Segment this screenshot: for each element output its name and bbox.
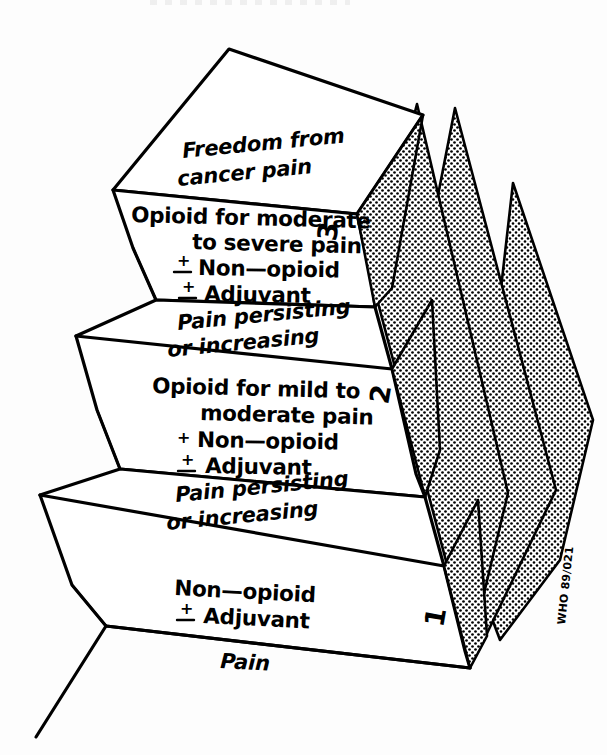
step-2-sign-4: +: [178, 450, 195, 471]
step-1-group: [40, 469, 487, 668]
step-3-sign-4: +: [179, 277, 196, 298]
step-1-sign-2: +: [177, 599, 194, 620]
step-2-treatment-line-2: moderate pain: [200, 400, 374, 430]
step-3-treatment-line-3: Non—opioid: [198, 255, 340, 282]
plus-glyph-c: +: [181, 450, 194, 469]
plus-glyph-a: +: [177, 251, 190, 270]
who-analgesic-ladder-figure: Freedom from cancer pain Opioid for mode…: [0, 0, 607, 755]
step-2-sign-3: +: [177, 428, 190, 447]
plus-glyph-d: +: [180, 599, 193, 618]
base-label-pain: Pain: [220, 649, 271, 676]
ladder-diagram-canvas: Freedom from cancer pain Opioid for mode…: [0, 0, 607, 755]
step-3-sign-3: +: [174, 251, 191, 272]
plus-glyph-b: +: [182, 277, 195, 296]
step-2-treatment-line-3: Non—opioid: [197, 427, 339, 454]
